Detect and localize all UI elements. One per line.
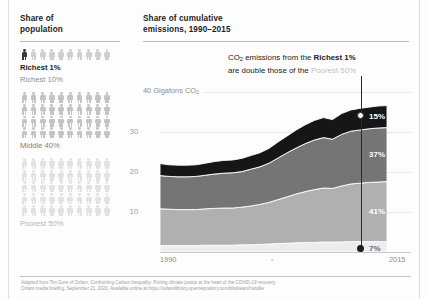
person-icon — [20, 104, 29, 115]
pictogram-label-richest1: Richest 1% — [20, 63, 124, 73]
person-icon — [20, 193, 29, 204]
person-icon — [66, 181, 75, 192]
emissions-panel-divider — [143, 41, 409, 42]
person-icon — [38, 104, 47, 115]
person-icon — [57, 127, 66, 138]
pictogram-row — [20, 104, 124, 115]
annotation-poorest-faint: Poorest 50% — [311, 66, 356, 75]
person-icon — [38, 116, 47, 127]
person-icon — [75, 181, 84, 192]
person-icon — [38, 170, 47, 181]
person-icon — [94, 92, 103, 103]
person-icon — [57, 158, 66, 169]
person-icon — [48, 181, 57, 192]
person-icon — [84, 181, 93, 192]
annotation-line2-prefix: are double those of the — [228, 66, 311, 75]
population-title-line1: Share of — [20, 14, 124, 25]
pictogram-row — [20, 92, 124, 103]
infographic-page: Share of population Richest 1%Richest 10… — [0, 0, 428, 299]
person-icon — [66, 205, 75, 216]
person-icon — [38, 158, 47, 169]
person-icon — [75, 116, 84, 127]
share-label-richest-1: 15% — [369, 112, 385, 121]
person-icon — [94, 116, 103, 127]
annotation-mid-text: emissions from the — [243, 53, 314, 62]
person-icon — [20, 181, 29, 192]
footer-divider — [20, 276, 411, 277]
person-icon — [84, 170, 93, 181]
person-icon — [57, 181, 66, 192]
person-icon — [75, 127, 84, 138]
person-icon — [38, 193, 47, 204]
y-tick-label: 30 — [120, 127, 138, 136]
person-icon — [66, 170, 75, 181]
person-icon — [48, 170, 57, 181]
person-icon — [38, 181, 47, 192]
share-label-middle-40: 41% — [369, 207, 385, 216]
person-icon — [66, 158, 75, 169]
person-icon — [103, 49, 112, 60]
person-icon — [94, 170, 103, 181]
person-icon — [38, 205, 47, 216]
person-icon — [29, 193, 38, 204]
area-chart-svg — [160, 92, 387, 252]
annotation-richest-bold: Richest 1% — [314, 53, 356, 62]
person-icon — [48, 127, 57, 138]
person-icon — [29, 181, 38, 192]
pictogram-row — [20, 116, 124, 127]
pictogram-group-middle40: Middle 40% — [20, 92, 124, 151]
pictogram-row — [20, 193, 124, 204]
person-icon — [103, 170, 112, 181]
x-axis-midpoint-mark: ▪ — [271, 257, 273, 263]
pictogram-row — [20, 181, 124, 192]
frame-line-left — [8, 0, 9, 299]
person-icon — [84, 92, 93, 103]
person-icon — [29, 104, 38, 115]
person-icon — [103, 104, 112, 115]
person-icon — [103, 158, 112, 169]
person-icon — [48, 104, 57, 115]
person-icon — [38, 49, 47, 60]
emissions-title-line1: Share of cumulative — [143, 14, 411, 25]
person-icon — [57, 92, 66, 103]
person-icon — [103, 116, 112, 127]
person-icon — [29, 205, 38, 216]
person-icon — [66, 127, 75, 138]
person-icon — [103, 92, 112, 103]
person-icon — [103, 127, 112, 138]
callout-connector-line — [361, 76, 362, 252]
person-icon — [66, 92, 75, 103]
person-icon — [75, 158, 84, 169]
population-title-line2: population — [20, 25, 124, 36]
person-icon — [20, 127, 29, 138]
person-icon — [84, 158, 93, 169]
person-icon — [48, 205, 57, 216]
person-icon — [84, 49, 93, 60]
person-icon — [103, 205, 112, 216]
population-panel-title: Share of population — [20, 14, 124, 35]
y-tick-label: 10 — [120, 207, 138, 216]
person-icon — [20, 116, 29, 127]
person-icon — [29, 170, 38, 181]
share-label-poorest-50: 7% — [369, 244, 381, 253]
person-icon — [29, 49, 38, 60]
person-icon — [94, 104, 103, 115]
person-icon — [66, 193, 75, 204]
population-panel: Share of population Richest 1%Richest 10… — [20, 14, 124, 229]
pictogram-container: Richest 1%Richest 10%Middle 40%Poorest 5… — [20, 49, 124, 229]
person-icon — [48, 193, 57, 204]
person-icon — [94, 127, 103, 138]
person-icon — [57, 193, 66, 204]
share-label-richest-10: 37% — [369, 150, 385, 159]
person-icon — [57, 104, 66, 115]
person-icon — [38, 127, 47, 138]
callout-dot-richest — [357, 112, 364, 119]
annotation-co2-prefix: CO — [228, 53, 240, 62]
person-icon — [75, 170, 84, 181]
x-tick-start: 1990 — [160, 255, 176, 264]
person-icon — [75, 92, 84, 103]
person-icon — [84, 205, 93, 216]
person-icon — [20, 49, 29, 60]
person-icon — [94, 181, 103, 192]
x-tick-end: 2015 — [389, 255, 405, 264]
